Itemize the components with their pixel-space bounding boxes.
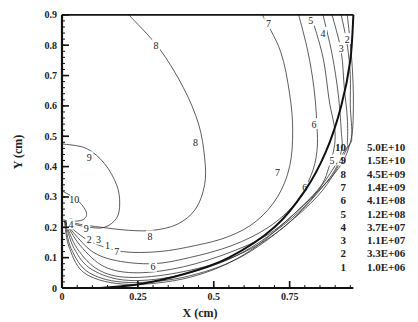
contour-label-3: 3 (96, 234, 101, 245)
contour-label-4: 4 (321, 28, 326, 39)
y-tick-label: 0.5 (45, 131, 58, 142)
contour-label-5: 5 (308, 15, 313, 26)
legend-value: 3.3E+06 (367, 247, 406, 259)
contour-label-9: 9 (84, 223, 89, 234)
y-tick-label: 0.7 (45, 70, 58, 81)
domain-boundary (98, 15, 353, 288)
legend-value: 1.2E+08 (367, 208, 406, 220)
contour-label-3: 3 (339, 43, 344, 54)
contour-label-8: 8 (193, 137, 198, 148)
x-tick-label: 0.75 (281, 291, 299, 302)
contour-label-10: 10 (69, 194, 79, 205)
x-tick-label: 0.25 (129, 291, 147, 302)
contour-line-8 (68, 15, 206, 231)
legend-value: 1.5E+10 (367, 154, 406, 166)
contour-line-5 (65, 15, 335, 273)
x-axis-title: X (cm) (183, 306, 218, 320)
contour-label-4: 4 (69, 219, 74, 230)
legend-value: 1.4E+09 (367, 181, 406, 193)
legend-value: 1.0E+06 (367, 261, 406, 273)
legend-level: 7 (341, 181, 347, 193)
y-tick-label: 0.4 (45, 161, 58, 172)
contour-chart: 888991077766655544433221 00.250.50.7500.… (0, 0, 418, 322)
y-tick-label: 0.3 (45, 191, 58, 202)
contour-label-9: 9 (87, 152, 92, 163)
legend: 105.0E+1091.5E+1084.5E+0971.4E+0964.1E+0… (335, 141, 406, 273)
contour-label-2: 2 (345, 34, 350, 45)
y-tick-label: 0.1 (45, 252, 58, 263)
y-tick-label: 0 (52, 283, 57, 294)
contour-label-8: 8 (148, 231, 153, 242)
contour-label-6: 6 (311, 119, 316, 130)
legend-level: 1 (341, 261, 347, 273)
legend-value: 1.1E+07 (367, 234, 406, 246)
legend-level: 4 (341, 221, 347, 233)
legend-level: 9 (341, 154, 347, 166)
legend-level: 2 (341, 247, 347, 259)
legend-level: 5 (341, 208, 347, 220)
y-tick-label: 0.8 (45, 40, 58, 51)
contour-line-7 (65, 15, 293, 253)
legend-level: 8 (341, 168, 347, 180)
contour-label-1: 1 (105, 240, 110, 251)
legend-value: 4.5E+09 (367, 168, 406, 180)
contour-label-7: 7 (266, 18, 271, 29)
legend-value: 5.0E+10 (367, 141, 406, 153)
x-tick-label: 0 (60, 291, 65, 302)
contour-label-8: 8 (154, 40, 159, 51)
y-tick-label: 0.6 (45, 100, 58, 111)
contour-label-6: 6 (151, 261, 156, 272)
contour-label-5: 5 (330, 155, 335, 166)
contour-label-7: 7 (275, 167, 280, 178)
contour-label-7: 7 (114, 246, 119, 257)
legend-level: 3 (341, 234, 347, 246)
legend-level: 10 (335, 141, 347, 153)
legend-level: 6 (341, 194, 347, 206)
y-axis-title: Y (cm) (11, 135, 25, 170)
y-tick-label: 0.2 (45, 222, 58, 233)
legend-value: 3.7E+07 (367, 221, 406, 233)
y-tick-label: 0.9 (45, 9, 58, 20)
x-tick-label: 0.5 (208, 291, 221, 302)
legend-value: 4.1E+08 (367, 194, 406, 206)
contour-label-2: 2 (87, 234, 92, 245)
